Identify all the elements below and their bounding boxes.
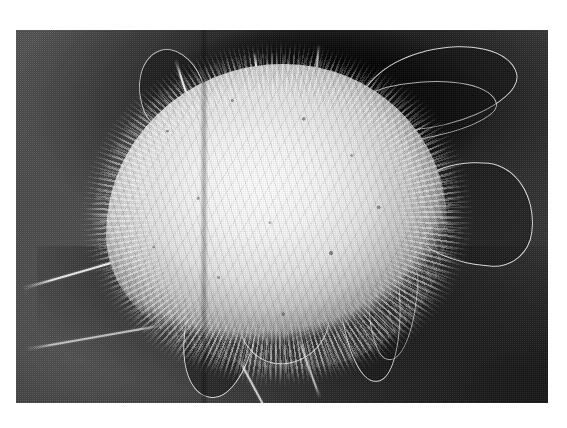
scan-band-artifact (200, 30, 208, 403)
micrograph-plate (16, 30, 548, 403)
page-canvas (0, 0, 567, 428)
